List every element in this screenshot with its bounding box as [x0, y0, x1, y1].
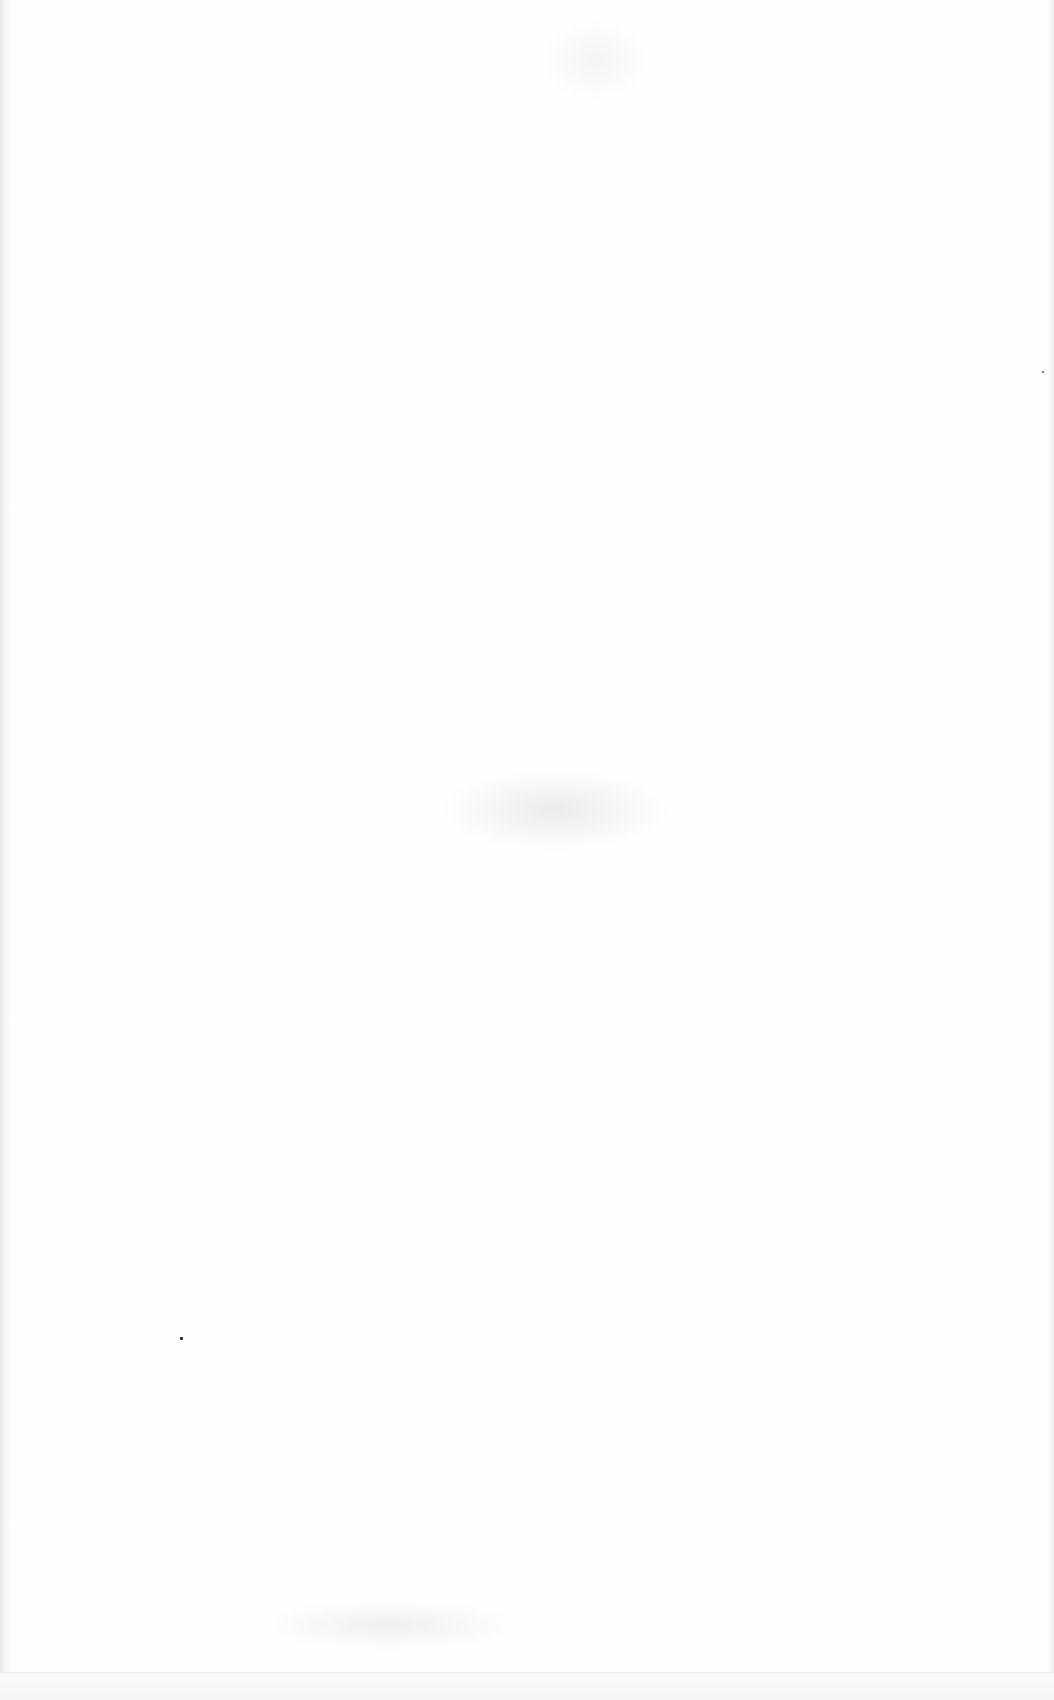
scan-speck	[180, 1337, 183, 1340]
scan-speck	[1042, 371, 1044, 373]
page-left-edge-shadow	[0, 0, 10, 1700]
page-bottom-edge	[0, 1672, 1054, 1700]
bleed-through-center	[440, 770, 670, 850]
page-right-edge-shadow	[1048, 0, 1054, 1700]
bleed-through-bottom	[260, 1600, 520, 1650]
bleed-through-top	[540, 20, 650, 100]
blank-page	[0, 0, 1054, 1700]
